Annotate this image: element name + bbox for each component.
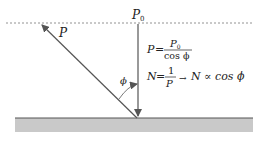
flux-diagram: P0 P ϕ P = P0 cos ϕ N = 1 P → N ∝ cos ϕ	[0, 0, 268, 142]
angle-arc	[119, 84, 137, 99]
svg-text:N ∝ cos ϕ: N ∝ cos ϕ	[190, 70, 245, 83]
svg-text:=: =	[155, 43, 164, 56]
p-label: P	[58, 26, 68, 40]
svg-text:P: P	[165, 78, 173, 89]
svg-text:cos ϕ: cos ϕ	[164, 50, 190, 61]
svg-text:→: →	[179, 73, 187, 83]
equation-n: N = 1 P → N ∝ cos ϕ	[146, 65, 245, 89]
ground-surface	[15, 118, 253, 132]
p0-label: P0	[131, 8, 145, 23]
svg-text:P: P	[146, 43, 155, 56]
phi-label: ϕ	[120, 75, 127, 86]
svg-text:P0: P0	[169, 38, 181, 50]
diagonal-arrow	[42, 25, 137, 118]
equation-p: P = P0 cos ϕ	[146, 38, 192, 61]
svg-text:1: 1	[168, 65, 174, 76]
svg-text:=: =	[156, 70, 165, 83]
